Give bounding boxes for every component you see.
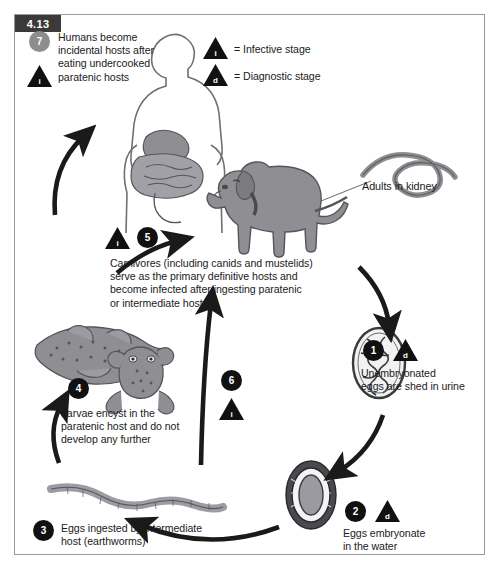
- step-4-badge: 4: [68, 378, 89, 399]
- step-7-infective-glyph: i: [27, 65, 52, 87]
- adults-in-kidney-label: Adults in kidney: [362, 180, 437, 193]
- arrow-eggs-to-water: [339, 415, 383, 471]
- legend-diagnostic-label: = Diagnostic stage: [234, 70, 321, 83]
- step-3-text: Eggs ingested by intermediate host (eart…: [61, 522, 261, 548]
- step-6-infective-triangle-icon: i: [219, 398, 244, 420]
- legend-infective-glyph: i: [203, 37, 228, 59]
- earthworm-illustration: [51, 487, 223, 511]
- step-3-badge: 3: [33, 520, 54, 541]
- step-6-infective-glyph: i: [219, 398, 244, 420]
- step-7-text: Humans become incidental hosts after eat…: [58, 31, 178, 84]
- step-1-diagnostic-glyph: d: [393, 339, 418, 361]
- legend-infective-label: = Infective stage: [234, 43, 311, 56]
- step-1-diagnostic-triangle-icon: d: [393, 339, 418, 361]
- legend-diagnostic-glyph: d: [203, 64, 228, 86]
- digestive-organs-illustration: [131, 130, 203, 222]
- step-2-diagnostic-glyph: d: [375, 500, 400, 522]
- arrow-dog-to-eggs: [359, 267, 389, 325]
- embryonated-egg-illustration: [286, 461, 336, 529]
- arrow-worm-to-larvae: [53, 405, 61, 463]
- legend-infective-triangle-icon: i: [203, 37, 228, 59]
- step-2-text: Eggs embryonate in the water: [343, 527, 463, 553]
- legend-diagnostic-triangle-icon: d: [203, 64, 228, 86]
- step-5-badge: 5: [137, 227, 158, 248]
- step-5-infective-triangle-icon: i: [105, 227, 130, 249]
- arrow-to-humans: [55, 137, 83, 215]
- step-4-text: Larvae encyst in the paratenic host and …: [61, 407, 201, 447]
- step-2-diagnostic-triangle-icon: d: [375, 500, 400, 522]
- dog-illustration: [207, 162, 348, 257]
- step-2-badge: 2: [345, 501, 366, 522]
- step-7-badge: 7: [29, 31, 50, 52]
- step-1-badge: 1: [363, 340, 384, 361]
- step-5-text: Carnivores (including canids and musteli…: [110, 257, 360, 310]
- figure-panel: 4.13: [14, 14, 485, 555]
- step-1-text: Unembryonated eggs are shed in urine: [361, 367, 481, 393]
- step-7-infective-triangle-icon: i: [27, 65, 52, 87]
- step-6-badge: 6: [221, 370, 242, 391]
- step-5-infective-glyph: i: [105, 227, 130, 249]
- arrow-larvae-to-host: [201, 303, 211, 465]
